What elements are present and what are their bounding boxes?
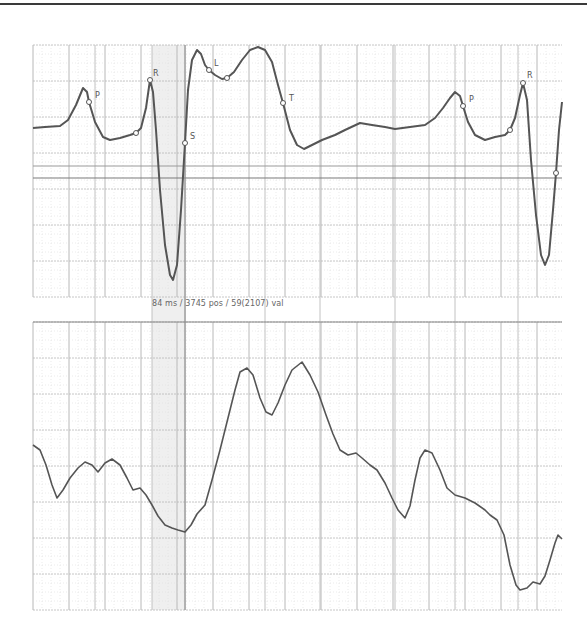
wave-marker[interactable] [508, 128, 513, 133]
wave-marker[interactable] [87, 100, 92, 105]
wave-label: R [527, 71, 533, 80]
wave-marker[interactable] [225, 76, 230, 81]
wave-marker[interactable] [134, 131, 139, 136]
cursor-readout: 84 ms / 3745 pos / 59(2107) val [152, 299, 284, 308]
ecg-chart[interactable]: PRSLTPR [0, 0, 587, 639]
wave-marker[interactable] [554, 171, 559, 176]
bottom-panel-grid [33, 45, 562, 610]
wave-label: S [190, 132, 195, 141]
wave-marker[interactable] [281, 101, 286, 106]
top-panel-grid [33, 45, 562, 297]
wave-label: R [153, 69, 159, 78]
cursor-selection-band[interactable] [152, 45, 186, 610]
wave-marker[interactable] [461, 104, 466, 109]
wave-marker[interactable] [183, 141, 188, 146]
wave-label: P [469, 95, 474, 104]
wave-marker[interactable] [521, 81, 526, 86]
wave-label: L [214, 59, 219, 68]
wave-label: T [288, 94, 294, 103]
wave-label: P [95, 91, 100, 100]
ecg-trace-filtered [33, 47, 562, 280]
wave-marker[interactable] [148, 78, 153, 83]
wave-marker[interactable] [207, 68, 212, 73]
